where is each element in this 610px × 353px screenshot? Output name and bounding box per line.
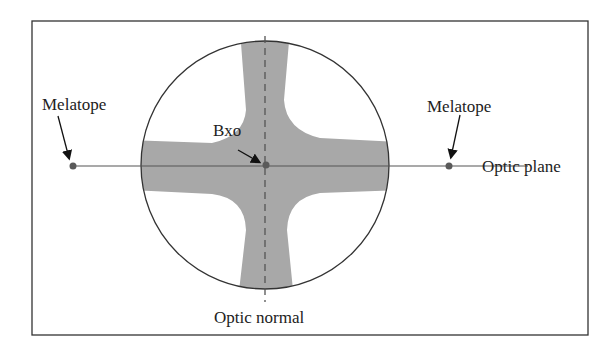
interference-figure (0, 0, 610, 353)
melatope-right-label: Melatope (427, 98, 491, 115)
melatope-left-label: Melatope (42, 96, 106, 113)
melatope-left-dot (70, 163, 77, 170)
bxo-label: Bxo (213, 122, 241, 139)
bxo-dot (263, 162, 270, 169)
melatope-right-dot (446, 163, 453, 170)
optic-plane-label: Optic plane (482, 158, 561, 175)
optic-normal-label: Optic normal (214, 309, 304, 326)
